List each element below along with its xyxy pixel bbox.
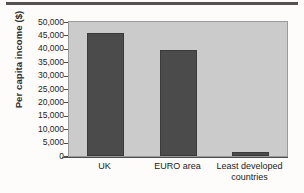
y-axis-tick-label: 40,000 <box>18 44 64 53</box>
x-axis-tick-label-line: UK <box>68 161 141 172</box>
y-axis-tick-label: 20,000 <box>18 98 64 107</box>
x-axis-tick-label-line: countries <box>213 172 286 183</box>
y-axis-tick-label: 10,000 <box>18 125 64 134</box>
y-axis-tick-label: 25,000 <box>18 85 64 94</box>
x-axis-tick-label-line: EURO area <box>141 161 214 172</box>
y-axis-tick-label: 30,000 <box>18 71 64 80</box>
y-axis-tick-labels: 50,00045,00040,00035,00030,00025,00020,0… <box>18 17 64 161</box>
chart-figure: Per capita income ($) 50,00045,00040,000… <box>0 0 304 193</box>
bars-container <box>69 22 287 156</box>
x-axis-tick-label: Least developedcountries <box>213 161 286 183</box>
x-axis-tick-label: UK <box>68 161 141 172</box>
y-axis-tick-label: 35,000 <box>18 58 64 67</box>
y-axis-tick-label: 15,000 <box>18 111 64 120</box>
top-rule-divider <box>6 2 298 5</box>
y-axis-tick-label: 45,000 <box>18 31 64 40</box>
plot-area <box>68 21 288 157</box>
bar <box>232 152 269 156</box>
y-axis-tick-label: 5,000 <box>18 138 64 147</box>
bar <box>160 50 197 156</box>
x-axis-line <box>62 157 288 158</box>
y-axis-tick-label: 50,000 <box>18 18 64 27</box>
x-axis-tick-label-line: Least developed <box>213 161 286 172</box>
x-axis-tick-labels: UKEURO areaLeast developedcountries <box>68 161 288 191</box>
y-axis-tick-label: 0 <box>18 152 64 161</box>
x-axis-tick-label: EURO area <box>141 161 214 172</box>
bar <box>87 33 124 156</box>
